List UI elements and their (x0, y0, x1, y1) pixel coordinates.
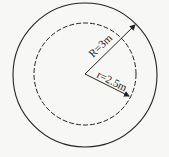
diagram-svg: R=3m r=2.5m (0, 0, 169, 157)
concentric-circles-diagram: R=3m r=2.5m (0, 0, 169, 157)
outer-radius-label: R=3m (86, 31, 115, 59)
inner-radius-label: r=2.5m (95, 68, 130, 93)
